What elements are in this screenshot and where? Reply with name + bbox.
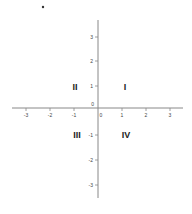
quadrant-label-ii: II (72, 82, 77, 92)
x-tick-label: -1 (72, 112, 77, 118)
y-tick-label: 2 (90, 58, 93, 64)
y-tick-label: -3 (89, 182, 94, 188)
stray-dot (42, 6, 44, 8)
quadrant-label-i: I (124, 82, 127, 92)
x-tick-label: 3 (169, 112, 172, 118)
y-tick-label: -1 (89, 132, 94, 138)
x-tick-label: 1 (121, 112, 124, 118)
x-tick-label: 2 (145, 112, 148, 118)
origin-label: 0 (91, 101, 94, 107)
x-tick-label: -2 (48, 112, 53, 118)
quadrant-label-iv: IV (122, 130, 131, 140)
quadrant-label-iii: III (73, 130, 81, 140)
y-tick-label: 1 (90, 83, 93, 89)
x-tick-label: -3 (24, 112, 29, 118)
coordinate-plane: -3 -2 -1 0 1 2 3 3 2 1 0 -1 -2 -3 I II I… (0, 0, 192, 214)
y-tick-label: -2 (89, 157, 94, 163)
x-tick-label-zero: 0 (100, 112, 103, 118)
y-tick-label: 3 (90, 34, 93, 40)
